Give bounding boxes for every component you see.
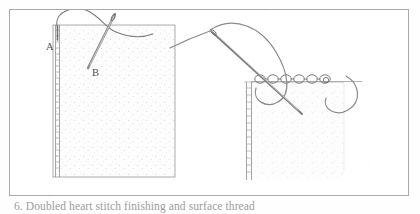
right-stitch-diagram [170, 23, 362, 180]
figure-frame: A B [9, 9, 409, 196]
label-a: A [46, 41, 54, 52]
stitch-diagram-svg: A B [10, 10, 410, 197]
right-thread-tail [170, 31, 210, 48]
scanned-page: A B [0, 0, 420, 214]
right-fabric-panel [244, 82, 344, 180]
left-fabric-panel [53, 25, 175, 177]
left-stitch-diagram: A B [46, 10, 175, 177]
label-b: B [92, 67, 99, 78]
figure-caption: 6. Doubled heart stitch finishing and su… [14, 200, 406, 214]
